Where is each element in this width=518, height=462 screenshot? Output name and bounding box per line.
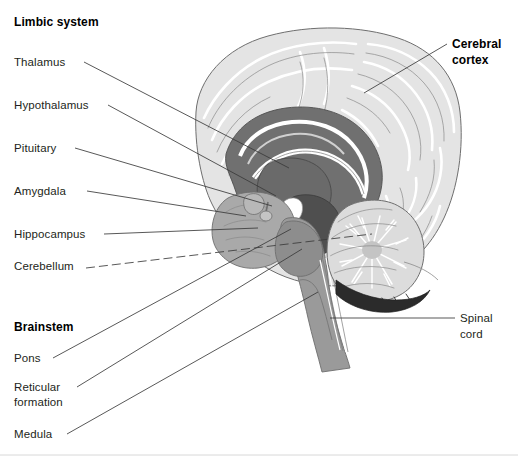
cerebellum-core bbox=[362, 241, 382, 259]
brain-diagram-svg: Limbic system Thalamus Hypothalamus Pitu… bbox=[0, 0, 518, 462]
heading-brainstem: Brainstem bbox=[14, 320, 74, 334]
label-spinal-cord-line-1: Spinal bbox=[460, 312, 493, 324]
label-hypothalamus: Hypothalamus bbox=[14, 99, 89, 111]
label-pons: Pons bbox=[14, 352, 41, 364]
label-cerebral-cortex-line-2: cortex bbox=[452, 53, 489, 67]
label-amygdala: Amygdala bbox=[14, 185, 66, 197]
label-reticular-formation-line-1: Reticular bbox=[14, 381, 60, 393]
brain-anatomy-figure: Limbic system Thalamus Hypothalamus Pitu… bbox=[0, 0, 518, 462]
label-hippocampus: Hippocampus bbox=[14, 228, 86, 240]
pituitary-gland bbox=[260, 211, 272, 221]
label-cerebellum: Cerebellum bbox=[14, 260, 74, 272]
leader-line-pons bbox=[53, 229, 291, 358]
label-spinal-cord-line-2: cord bbox=[460, 328, 483, 340]
label-reticular-formation-line-2: formation bbox=[14, 396, 63, 408]
leader-line-medula bbox=[67, 292, 318, 434]
label-medula: Medula bbox=[14, 428, 53, 440]
amygdala-structure bbox=[244, 194, 265, 215]
label-pituitary: Pituitary bbox=[14, 142, 57, 154]
label-thalamus: Thalamus bbox=[14, 56, 65, 68]
brain-illustration bbox=[196, 28, 462, 372]
leader-line-reticular-formation bbox=[77, 249, 302, 387]
heading-limbic-system: Limbic system bbox=[14, 15, 99, 29]
label-cerebral-cortex-line-1: Cerebral bbox=[452, 37, 502, 51]
